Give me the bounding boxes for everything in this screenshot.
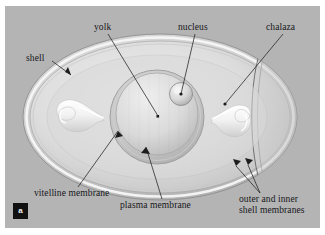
dot-chalaza — [223, 102, 226, 105]
label-shell: shell — [26, 53, 44, 64]
panel-letter-text: a — [18, 207, 22, 215]
dot-nucleus — [179, 92, 182, 95]
figure-panel: shell yolk nucleus chalaza vitelline mem… — [0, 0, 325, 235]
dot-yolk — [157, 115, 160, 118]
label-nucleus: nucleus — [178, 22, 208, 33]
diagram-plate: shell yolk nucleus chalaza vitelline mem… — [5, 6, 320, 228]
label-plasma-membrane: plasma membrane — [120, 200, 191, 211]
label-yolk: yolk — [94, 22, 111, 33]
label-vitelline-membrane: vitelline membrane — [34, 188, 109, 199]
panel-letter-badge: a — [13, 203, 28, 219]
label-chalaza: chalaza — [266, 22, 295, 33]
label-shell-membranes-line2: shell membranes — [239, 205, 305, 216]
label-shell-membranes-line1: outer and inner — [239, 194, 298, 205]
